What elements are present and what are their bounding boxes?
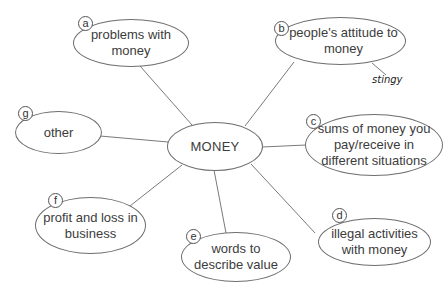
branch-label-f: profit and loss in business: [43, 210, 138, 242]
connector-c: [262, 145, 306, 147]
branch-label-b: people's attitude to money: [283, 25, 399, 57]
branch-node-b: people's attitude to money: [275, 17, 406, 65]
badge-g: g: [18, 106, 33, 121]
branch-label-e: words to describe value: [186, 241, 286, 273]
badge-c: c: [306, 114, 321, 129]
connector-a: [140, 66, 192, 125]
note-stingy: stingy: [372, 74, 403, 85]
connector-e: [214, 170, 226, 233]
badge-d: d: [332, 208, 347, 223]
center-label: MONEY: [190, 139, 239, 155]
branch-label-c: sums of money you pay/receive in differe…: [310, 121, 438, 169]
branch-label-a: problems with money: [86, 27, 176, 59]
branch-node-c: sums of money you pay/receive in differe…: [305, 114, 443, 176]
badge-b: b: [274, 21, 289, 36]
badge-a: a: [78, 16, 93, 31]
connector-f: [130, 165, 182, 206]
connector-g: [100, 136, 168, 142]
branch-label-g: other: [44, 125, 74, 141]
center-node-money: MONEY: [167, 122, 263, 171]
connector-d: [251, 164, 315, 233]
branch-label-d: illegal activities with money: [325, 226, 425, 258]
branch-node-d: illegal activities with money: [318, 218, 431, 266]
badge-f: f: [48, 193, 63, 208]
connector-b: [245, 62, 294, 126]
badge-e: e: [186, 229, 201, 244]
